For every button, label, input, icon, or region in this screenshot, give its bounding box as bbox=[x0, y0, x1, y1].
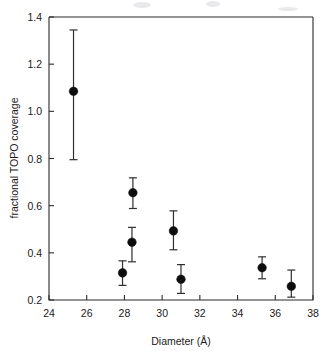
y-tick-label: 1.4 bbox=[27, 11, 42, 23]
x-tick-label: 34 bbox=[232, 307, 244, 319]
scatter-plot: 2426283032343638 0.20.40.60.81.01.21.4 D… bbox=[0, 0, 332, 353]
data-marker bbox=[69, 87, 78, 96]
x-tick-label: 24 bbox=[43, 307, 55, 319]
y-axis-title: fractional TOPO coverage bbox=[8, 97, 20, 218]
y-tick-label: 0.8 bbox=[27, 153, 42, 165]
y-tick-label: 0.6 bbox=[27, 200, 42, 212]
chart-figure: 2426283032343638 0.20.40.60.81.01.21.4 D… bbox=[0, 0, 332, 353]
x-axis-title: Diameter (Å) bbox=[151, 335, 211, 347]
x-tick-label: 32 bbox=[194, 307, 206, 319]
data-marker bbox=[177, 275, 186, 284]
x-tick-label: 30 bbox=[156, 307, 168, 319]
data-marker bbox=[258, 263, 267, 272]
y-tick-label: 1.0 bbox=[27, 105, 42, 117]
data-marker bbox=[169, 227, 178, 236]
x-tick-label: 26 bbox=[81, 307, 93, 319]
data-marker bbox=[129, 188, 138, 197]
y-tick-label: 1.2 bbox=[27, 58, 42, 70]
x-tick-label: 38 bbox=[307, 307, 319, 319]
x-tick-label: 28 bbox=[119, 307, 131, 319]
data-marker bbox=[118, 269, 127, 278]
data-marker bbox=[287, 282, 296, 291]
data-marker bbox=[128, 238, 137, 247]
y-tick-label: 0.4 bbox=[27, 247, 42, 259]
y-tick-label: 0.2 bbox=[27, 294, 42, 306]
x-tick-label: 36 bbox=[269, 307, 281, 319]
